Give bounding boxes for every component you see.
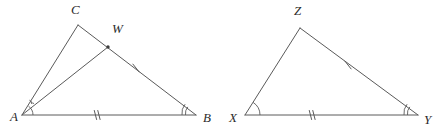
angle-arc-at-Y-outer: [404, 104, 407, 115]
vertex-label-A: A: [9, 109, 18, 124]
vertex-label-C: C: [71, 2, 80, 17]
segment-AC: [22, 25, 78, 115]
point-W-dot: [106, 45, 109, 48]
vertex-label-X: X: [228, 110, 238, 125]
vertex-label-B: B: [203, 110, 211, 125]
right-triangle-group: X Y Z: [228, 3, 433, 127]
left-triangle-group: A B C W: [9, 2, 211, 125]
segment-ZY: [300, 28, 418, 115]
segment-XZ: [245, 28, 300, 115]
geometry-figure: A B C W X Y Z: [0, 0, 441, 134]
vertex-label-W: W: [112, 21, 124, 36]
vertex-label-Y: Y: [424, 112, 433, 127]
segment-AW: [22, 47, 108, 115]
angle-arc-at-B-inner: [185, 107, 187, 115]
vertex-label-Z: Z: [294, 3, 302, 18]
angle-arc-at-Y-inner: [407, 107, 409, 115]
angle-arc-at-X-single: [253, 102, 260, 115]
geometry-canvas: A B C W X Y Z: [0, 0, 441, 134]
